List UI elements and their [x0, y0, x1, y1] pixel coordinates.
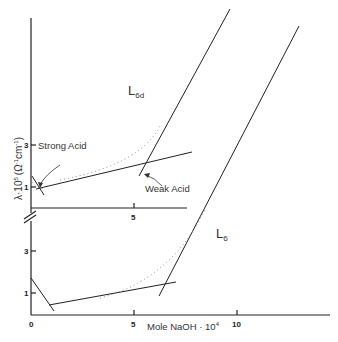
tick-upper-y3: 3 [24, 141, 29, 150]
lower-curve-lines [31, 26, 299, 311]
weak-acid-arrowhead-icon [144, 173, 150, 178]
tick-lower-x10: 10 [232, 320, 241, 329]
axis-break-icon [24, 208, 36, 223]
upper-curve-dots [32, 126, 160, 189]
lower-curve-label: L6 [216, 226, 228, 243]
strong-acid-annotation: Strong Acid [38, 140, 87, 151]
weak-acid-annotation: Weak Acid [145, 183, 190, 194]
upper-axes [31, 18, 187, 208]
tick-upper-x5: 5 [131, 213, 136, 222]
lower-curve-dots [100, 210, 205, 298]
tick-upper-y1: 1 [24, 183, 29, 192]
svg-text:λ·105(Ω-1cm-1): λ·105(Ω-1cm-1) [13, 137, 24, 200]
tick-lower-y3: 3 [24, 247, 29, 256]
y-axis-label: λ·105(Ω-1cm-1) [13, 137, 24, 200]
lower-axes [31, 221, 330, 315]
conductometric-titration-chart: λ·105(Ω-1cm-1) 3 1 5 3 1 0 5 10 L6d L6 S… [0, 0, 338, 342]
tick-lower-x5: 5 [131, 320, 136, 329]
x-axis-label: Mole NaOH · 104 [147, 321, 220, 332]
upper-curve-label: L6d [128, 83, 144, 100]
tick-lower-y1: 1 [24, 289, 29, 298]
upper-curve-lines [32, 9, 230, 195]
tick-lower-x0: 0 [29, 320, 34, 329]
